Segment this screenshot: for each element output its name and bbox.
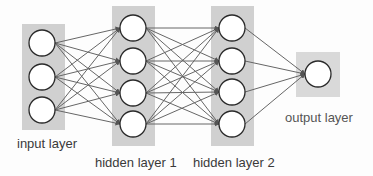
output-node-1 (305, 61, 331, 87)
hidden-layer-2-label: hidden layer 2 (193, 156, 275, 169)
hidden-layer-1-label: hidden layer 1 (95, 156, 177, 169)
hidden1-node-2 (120, 48, 146, 74)
neural-network-diagram: input layer hidden layer 1 hidden layer … (0, 0, 373, 176)
hidden2-node-1 (219, 15, 245, 41)
hidden1-node-3 (120, 80, 146, 106)
output-layer-label: output layer (285, 111, 353, 124)
hidden1-node-4 (120, 111, 146, 137)
input-layer-label: input layer (17, 137, 77, 150)
hidden2-node-2 (219, 48, 245, 74)
input-node-1 (29, 30, 55, 56)
hidden1-node-1 (120, 15, 146, 41)
hidden2-node-3 (219, 79, 245, 105)
connection-edges (55, 28, 305, 124)
hidden2-node-4 (219, 111, 245, 137)
input-node-2 (29, 64, 55, 90)
input-node-3 (29, 97, 55, 123)
